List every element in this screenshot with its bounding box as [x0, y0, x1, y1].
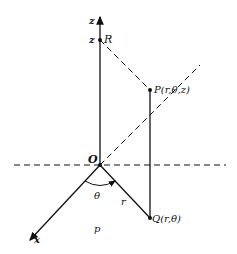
r-label: r — [121, 196, 127, 207]
r-point-label: R — [103, 33, 112, 46]
p-point-label: P(r,θ,z) — [153, 84, 190, 95]
r-to-p-dashed-line — [100, 40, 150, 90]
theta-arc — [85, 181, 115, 186]
z-axis-label: z — [88, 15, 95, 26]
x-axis-label: x — [33, 234, 41, 245]
plane-label: p — [94, 223, 101, 234]
cylindrical-coordinates-diagram: z z R P(r,θ,z) O θ r Q(r,θ) x p — [0, 0, 237, 254]
origin-label: O — [88, 153, 98, 166]
point-p — [148, 88, 152, 92]
point-o — [98, 163, 102, 167]
z-value-label: z — [88, 34, 95, 45]
point-r — [98, 38, 102, 42]
x-axis — [30, 165, 100, 240]
r-segment — [100, 165, 150, 218]
q-point-label: Q(r,θ) — [152, 213, 181, 224]
theta-label: θ — [94, 190, 100, 201]
